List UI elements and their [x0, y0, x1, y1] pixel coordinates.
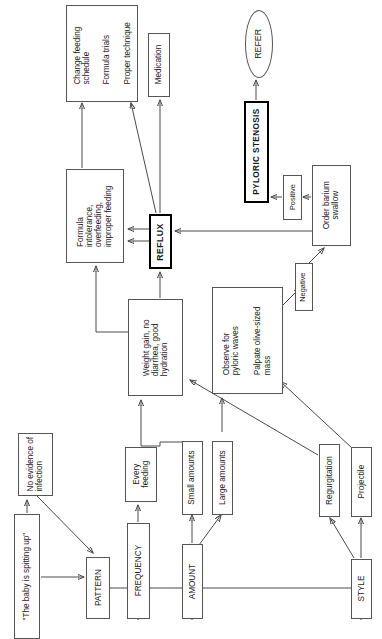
node-no-evidence-infection-label: No evidence of infection: [26, 437, 44, 492]
treatment-formula-trials: Formula trials: [102, 22, 111, 84]
node-chief-complaint[interactable]: "The baby is spitting up": [14, 514, 40, 639]
node-pyloric-stenosis-label: PYLORIC STENOSIS: [252, 109, 261, 195]
node-negative[interactable]: Negative: [295, 263, 313, 311]
node-regurgitation-label: Regurgitation: [325, 456, 334, 505]
node-small-amounts[interactable]: Small amounts: [182, 441, 203, 515]
node-pyloric-stenosis[interactable]: PYLORIC STENOSIS: [244, 101, 269, 203]
node-medication-label: Medication: [154, 45, 163, 85]
node-refer-label: REFER: [254, 29, 264, 59]
observe-pyloric-waves: Observe for pyloric waves: [223, 306, 241, 375]
node-formula-intolerance-label: Formula intolerance, overfeeding, improp…: [77, 185, 114, 246]
node-chief-complaint-label: "The baby is spitting up": [22, 533, 31, 621]
node-weight-gain-label: Weight gain, no diarrhea, good hydration: [142, 319, 170, 376]
node-negative-label: Negative: [300, 272, 308, 301]
node-observe-palpate[interactable]: Observe for pyloric waves Palpate olive-…: [212, 287, 283, 394]
node-refer[interactable]: REFER: [245, 10, 273, 78]
node-small-amounts-label: Small amounts: [188, 451, 197, 505]
node-formula-intolerance[interactable]: Formula intolerance, overfeeding, improp…: [66, 169, 124, 263]
node-large-amounts[interactable]: Large amounts: [212, 441, 233, 515]
node-frequency[interactable]: FREQUENCY: [127, 523, 150, 619]
node-projectile-label: Projectile: [357, 465, 366, 499]
node-order-barium-swallow[interactable]: Order barium swallow: [312, 165, 351, 246]
node-treatment-options[interactable]: Change feeding schedule Formula trials P…: [66, 5, 138, 102]
treatment-proper-technique: Proper technique: [122, 22, 131, 84]
node-reflux[interactable]: REFLUX: [149, 214, 172, 269]
treatment-change-feeding: Change feeding schedule: [73, 22, 91, 84]
node-amount[interactable]: AMOUNT: [182, 544, 203, 619]
node-every-feeding[interactable]: Every feeding: [125, 447, 157, 502]
node-reflux-label: REFLUX: [156, 223, 166, 261]
node-projectile[interactable]: Projectile: [351, 447, 372, 517]
node-no-evidence-infection[interactable]: No evidence of infection: [18, 433, 53, 496]
node-regurgitation[interactable]: Regurgitation: [319, 444, 340, 517]
node-pattern[interactable]: PATTERN: [86, 557, 110, 619]
node-amount-label: AMOUNT: [188, 564, 197, 599]
node-large-amounts-label: Large amounts: [218, 451, 227, 506]
node-positive[interactable]: Positive: [283, 175, 302, 220]
node-positive-label: Positive: [288, 185, 296, 211]
node-style-label: STYLE: [357, 576, 366, 602]
node-pattern-label: PATTERN: [93, 570, 102, 607]
node-frequency-label: FREQUENCY: [134, 545, 143, 596]
node-order-barium-swallow-label: Order barium swallow: [322, 181, 340, 229]
palpate-olive-sized-mass: Palpate olive-sized mass: [254, 306, 272, 375]
node-style[interactable]: STYLE: [351, 559, 372, 619]
node-medication[interactable]: Medication: [148, 33, 170, 97]
node-every-feeding-label: Every feeding: [132, 461, 150, 488]
node-weight-gain[interactable]: Weight gain, no diarrhea, good hydration: [128, 299, 183, 396]
